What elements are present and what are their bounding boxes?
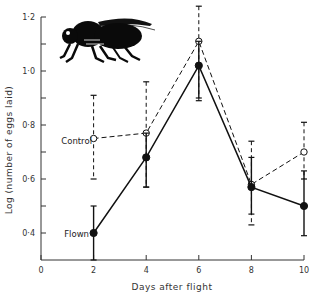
filled-circle-marker [143, 154, 150, 161]
x-tick-label: 10 [299, 266, 309, 275]
y-tick-label: 1·0 [22, 67, 35, 76]
x-tick-label: 0 [38, 266, 43, 275]
y-tick-label: 0·6 [22, 175, 35, 184]
filled-circle-marker [195, 62, 202, 69]
open-circle-marker [301, 149, 307, 155]
y-tick-label: 1·2 [22, 13, 35, 22]
fly-illustration-icon [60, 18, 155, 62]
y-tick-label: 0·4 [22, 229, 35, 238]
labels-layer: Days after flight Log (number of eggs la… [4, 86, 213, 292]
y-tick-label: 0·8 [22, 121, 35, 130]
x-tick-label: 6 [196, 266, 201, 275]
x-tick-label: 8 [249, 266, 254, 275]
y-axis-title: Log (number of eggs laid) [4, 86, 14, 215]
filled-circle-marker [90, 229, 97, 236]
x-axis-title: Days after flight [131, 282, 212, 292]
x-tick-label: 4 [144, 266, 149, 275]
control-series-label: Control [61, 136, 92, 146]
chart: 0·40·60·81·01·20246810 Days after flight… [0, 0, 320, 295]
flown-series-label: Flown [64, 229, 89, 239]
filled-circle-marker [248, 184, 255, 191]
filled-circle-marker [300, 202, 307, 209]
flown-series [90, 41, 308, 260]
x-tick-label: 2 [91, 266, 96, 275]
